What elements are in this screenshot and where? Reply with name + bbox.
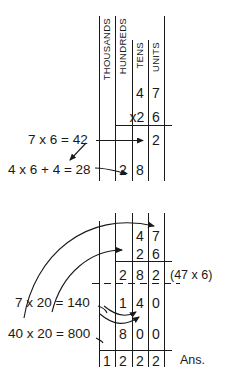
bottom-cell-multiplicand-units: 7 [148,229,164,243]
bottom-cell-total-units: 2 [148,354,164,368]
bottom-cell-total-hundreds: 2 [115,354,131,368]
carry-arrow-lower-short [100,314,139,323]
bottom-cell-first-partial-units: 2 [148,268,164,282]
bottom-cell-second-partial-hundreds: 1 [115,296,131,310]
bottom-cell-total-tens: 2 [132,354,148,368]
equation-seven-times-twenty: 7 x 20 = 140 [15,296,90,310]
column-header-thousands: THOUSANDS [102,18,112,80]
column-header-tens: TENS [135,42,145,69]
top-cell-multiplicand-units: 7 [148,86,164,100]
bottom-cell-third-partial-tens: 0 [132,327,148,341]
column-header-units: UNITS [151,42,161,72]
bottom-cell-second-partial-tens: 4 [132,296,148,310]
bottom-cell-first-partial-tens: 8 [132,268,148,282]
bottom-cell-multiplier-tens: 2 [132,247,148,261]
figure-artwork [0,0,226,371]
figure-canvas: THOUSANDS HUNDREDS TENS UNITS 4 7 x2 6 2… [0,0,226,371]
bottom-cell-second-partial-units: 0 [148,296,164,310]
top-cell-multiplicand-tens: 4 [132,86,148,100]
equation-four-times-six-plus-four: 4 x 6 + 4 = 28 [8,163,91,177]
top-cell-partial-tens: 8 [132,163,148,177]
column-header-hundreds: HUNDREDS [118,18,128,74]
bottom-cell-first-partial-hundreds: 2 [115,268,131,282]
top-cell-multiplier-tens: x2 [126,110,148,124]
top-cell-multiplier-units: 6 [148,110,164,124]
top-cell-partial-units: 2 [148,133,164,147]
equation-seven-times-six: 7 x 6 = 42 [28,133,88,147]
bottom-cell-multiplicand-tens: 4 [132,229,148,243]
top-cell-partial-hundreds: 2 [115,163,131,177]
equation-forty-times-twenty: 40 x 20 = 800 [8,327,90,341]
bottom-cell-third-partial-units: 0 [148,327,164,341]
first-partial-product-note: (47 x 6) [170,269,212,282]
answer-label: Ans. [180,354,205,367]
bottom-cell-multiplier-units: 6 [148,247,164,261]
bottom-cell-total-thousands: 1 [99,354,115,368]
bottom-cell-third-partial-hundreds: 8 [115,327,131,341]
